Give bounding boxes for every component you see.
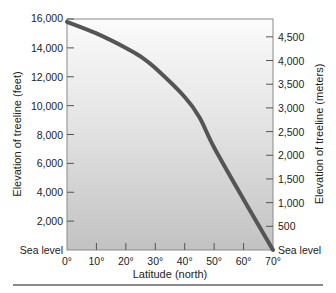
y-tick-label-right: 3,000 [278, 102, 304, 114]
x-tick-label: 60° [236, 255, 252, 267]
y-tick-label-right: 500 [278, 220, 296, 232]
y-tick-label-left: 4,000 [37, 186, 63, 198]
x-tick-label: 0° [62, 255, 72, 267]
x-axis-title: Latitude (north) [133, 268, 208, 280]
y-tick-label-right: Sea level [278, 244, 321, 256]
y-tick-label-left: 16,000 [31, 12, 63, 24]
x-tick-label: 30° [147, 255, 163, 267]
x-tick-label: 50° [206, 255, 222, 267]
x-tick-label: 70° [265, 255, 281, 267]
plot-area [67, 19, 273, 250]
y-tick-label-right: 3,500 [278, 78, 304, 90]
x-tick-label: 10° [88, 255, 104, 267]
bottom-divider [13, 284, 323, 286]
y-tick-label-right: 2,000 [278, 149, 304, 161]
y-tick-label-left: 2,000 [37, 215, 63, 227]
treeline-chart: Sea level2,0004,0006,0008,00010,00012,00… [0, 0, 336, 293]
y-axis-title-left: Elevation of treeline (feet) [11, 71, 23, 196]
y-tick-label-left: 6,000 [37, 157, 63, 169]
y-tick-label-right: 1,500 [278, 173, 304, 185]
y-tick-label-left: 14,000 [31, 42, 63, 54]
y-tick-label-left: 12,000 [31, 71, 63, 83]
x-tick-label: 20° [118, 255, 134, 267]
y-tick-label-left: Sea level [20, 244, 63, 256]
y-tick-label-left: 8,000 [37, 129, 63, 141]
y-tick-label-right: 1,000 [278, 197, 304, 209]
y-tick-label-right: 4,000 [278, 55, 304, 67]
y-tick-label-right: 2,500 [278, 126, 304, 138]
y-tick-label-right: 4,500 [278, 31, 304, 43]
x-tick-label: 40° [177, 255, 193, 267]
left-axis: Sea level2,0004,0006,0008,00010,00012,00… [20, 12, 74, 256]
y-axis-title-right: Elevation of treeline (meters) [313, 64, 325, 205]
y-tick-label-left: 10,000 [31, 100, 63, 112]
